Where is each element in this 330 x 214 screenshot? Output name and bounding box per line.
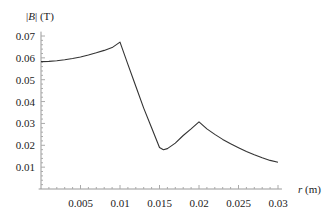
x-axis-title: r (m) xyxy=(298,183,321,196)
magnetic-field-chart: 0.010.020.030.040.050.060.07 0.0050.010.… xyxy=(0,0,330,214)
y-axis-title: |B| (T) xyxy=(26,10,54,23)
y-tick-label: 0.05 xyxy=(16,74,36,86)
data-line xyxy=(41,42,278,162)
x-tick-label: 0.025 xyxy=(226,197,251,209)
chart-canvas: 0.010.020.030.040.050.060.07 0.0050.010.… xyxy=(0,0,330,214)
plot-area xyxy=(41,42,278,162)
y-axis: 0.010.020.030.040.050.060.07 xyxy=(16,30,45,189)
y-tick-label: 0.06 xyxy=(16,52,36,64)
x-tick-label: 0.005 xyxy=(68,197,93,209)
x-tick-label: 0.02 xyxy=(189,197,208,209)
x-tick-label: 0.03 xyxy=(268,197,288,209)
x-tick-label: 0.015 xyxy=(147,197,172,209)
y-tick-label: 0.03 xyxy=(16,117,36,129)
y-tick-label: 0.04 xyxy=(16,96,36,108)
y-tick-label: 0.07 xyxy=(16,30,36,42)
x-tick-label: 0.01 xyxy=(110,197,129,209)
y-tick-label: 0.01 xyxy=(16,161,35,173)
x-axis: 0.0050.010.0150.020.0250.03 xyxy=(39,185,288,209)
y-tick-label: 0.02 xyxy=(16,139,35,151)
